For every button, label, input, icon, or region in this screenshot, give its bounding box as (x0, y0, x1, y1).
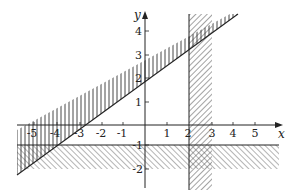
y-tick-label: 4 (135, 25, 142, 38)
x-axis-label: x (278, 127, 285, 141)
inequality-graph: -5 -4 -3 -2 -1 1 2 3 4 5 4 3 2 1 -1 -2 x… (0, 0, 289, 193)
y-axis-label: y (133, 8, 141, 22)
x-tick-label: 1 (164, 127, 171, 140)
x-tick-label: 3 (209, 127, 216, 140)
x-tick-label: -4 (50, 127, 61, 140)
hatched-band-y-1-y-2 (17, 145, 279, 169)
x-tick-label: -3 (74, 127, 85, 140)
y-axis-arrow-icon (142, 11, 148, 19)
x-tick-label: -2 (96, 127, 107, 140)
x-tick-label: 2 (185, 127, 192, 140)
x-tick-label: -5 (27, 127, 38, 140)
y-tick-label: 2 (135, 72, 142, 85)
x-tick-label: -1 (117, 127, 128, 140)
y-tick-label: 1 (135, 96, 142, 109)
y-tick-label: 3 (135, 49, 142, 62)
y-tick-label: -1 (132, 139, 143, 152)
x-tick-label: 5 (252, 127, 259, 140)
x-tick-label: 4 (230, 127, 237, 140)
y-tick-label: -2 (132, 163, 143, 176)
